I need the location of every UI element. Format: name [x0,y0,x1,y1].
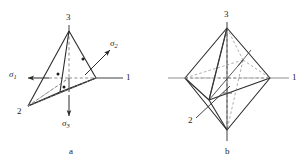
sigma-1-subscript: 1 [13,73,16,80]
tetrahedron-edges [28,31,96,106]
panel-a-drawing [0,0,307,168]
sigma-3-subscript: 3 [66,122,69,129]
panel-a-caption: a [69,147,73,156]
sigma-2-arrow [85,50,110,75]
panel-a-label-1: 1 [126,73,131,82]
panel-a-sigma-1-label: σ1 [9,70,17,79]
octahedron-back-edges [185,28,270,130]
panel-b-label-1: 1 [292,73,297,82]
figure-page: 3 1 2 σ1 σ2 σ3 a 3 1 2 b [0,0,307,168]
panel-b-label-2: 2 [188,116,193,125]
octahedron-front-edges [185,28,270,130]
panel-a-sigma-2-label: σ2 [110,39,118,48]
panel-a-sigma-3-label: σ3 [62,119,70,128]
panel-a-label-2: 2 [17,107,22,116]
octahedron-outline [185,28,270,130]
panel-a-label-3: 3 [66,13,71,22]
panel-b-caption: b [225,147,230,156]
sigma-2-subscript: 2 [114,42,117,49]
panel-b-label-3: 3 [224,10,229,19]
